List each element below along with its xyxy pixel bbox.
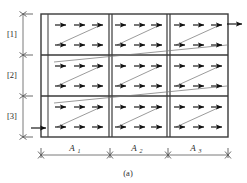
return-line-row2-to-row3 [54, 86, 227, 103]
row-label-1: [1] [7, 29, 17, 39]
connector-r2c3 [176, 66, 220, 86]
column-label-2: A 2 [130, 143, 142, 154]
connector-r2c1 [57, 66, 101, 86]
column-label-1: A 1 [68, 143, 80, 154]
connector-r1c2 [117, 25, 160, 45]
column-label-3-sub: 3 [198, 148, 202, 154]
connector-r3c2 [117, 107, 160, 127]
return-line-row1-to-row2 [54, 45, 227, 62]
connector-r1c1 [57, 25, 101, 45]
column-label-1-sub: 1 [78, 148, 81, 154]
connector-r1c3 [176, 25, 220, 45]
vertical-dimension: [1] [2] [3] [7, 12, 33, 140]
svg-text:A: A [189, 143, 196, 153]
vertical-dimension-ticks [20, 12, 34, 140]
serpentine-connectors [57, 25, 220, 127]
figure-caption: (a) [123, 168, 133, 178]
connector-r2c2 [117, 66, 160, 86]
row-label-2: [2] [7, 70, 17, 80]
row-return-lines [54, 45, 227, 103]
figure-container: [1] [2] [3] A 1 A 2 [0, 0, 247, 183]
column-label-2-sub: 2 [140, 148, 143, 154]
connector-r3c3 [176, 107, 220, 127]
horizontal-dimension: A 1 A 2 A 3 [38, 143, 231, 159]
row-label-3: [3] [7, 111, 17, 121]
column-label-3: A 3 [189, 143, 201, 154]
arrow-field [31, 24, 242, 128]
svg-text:A: A [130, 143, 137, 153]
connector-r3c1 [57, 107, 101, 127]
svg-text:A: A [68, 143, 75, 153]
technical-diagram-svg: [1] [2] [3] A 1 A 2 [0, 0, 247, 183]
